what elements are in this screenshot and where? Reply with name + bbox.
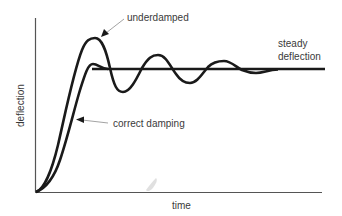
damping-diagram: underdamped correct damping steady defle…	[0, 0, 342, 216]
smudge-mark	[146, 178, 157, 191]
underdamped-arrowhead	[101, 29, 109, 37]
steady-deflection-label-line1: steady	[278, 38, 307, 49]
correct-damping-pointer-line	[82, 120, 108, 123]
y-axis-label: deflection	[15, 84, 26, 127]
underdamped-pointer-line	[106, 19, 124, 33]
x-axis-label: time	[172, 200, 191, 211]
correct-damping-label: correct damping	[113, 118, 185, 129]
correct-damping-arrowhead	[76, 117, 84, 124]
underdamped-label: underdamped	[127, 12, 189, 23]
steady-deflection-label-line2: deflection	[278, 51, 321, 62]
